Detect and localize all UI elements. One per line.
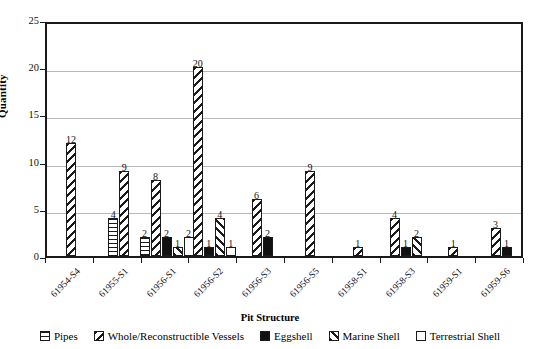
x-tick-mark — [380, 258, 381, 263]
bar-value-label: 1 — [221, 238, 241, 249]
bar — [140, 237, 150, 256]
legend-item: Terrestrial Shell — [416, 330, 500, 342]
y-tick-label: 20 — [13, 62, 39, 73]
legend-item: Eggshell — [260, 330, 313, 342]
bar-value-label: 2 — [407, 228, 427, 239]
y-tick-label: 5 — [13, 204, 39, 215]
x-tick-mark — [523, 258, 524, 263]
bar — [66, 143, 76, 256]
vessels-swatch-icon — [94, 331, 104, 341]
x-tick-label: 61956-S3 — [232, 266, 273, 307]
x-tick-label: 61955-S1 — [89, 266, 130, 307]
x-tick-mark — [427, 258, 428, 263]
bar — [193, 67, 203, 256]
x-tick-mark — [284, 258, 285, 263]
legend-label: Eggshell — [274, 330, 313, 342]
y-tick-label: 10 — [13, 157, 39, 168]
gridline — [47, 118, 521, 119]
eggshell-swatch-icon — [260, 331, 270, 341]
x-tick-mark — [141, 258, 142, 263]
marine-shell-swatch-icon — [329, 331, 339, 341]
y-axis-title: Quantity — [0, 74, 8, 118]
bar-value-label: 3 — [486, 219, 506, 230]
x-tick-label: 61959-S1 — [423, 266, 464, 307]
x-tick-label: 61954-S4 — [41, 266, 82, 307]
x-tick-label: 61958-S1 — [328, 266, 369, 307]
chart-legend: PipesWhole/Reconstructible VesselsEggshe… — [0, 330, 540, 342]
bar-value-label: 12 — [61, 134, 81, 145]
bar-value-label: 4 — [210, 209, 230, 220]
plot-area: 124928212201416291412131 — [45, 22, 523, 258]
bar — [108, 218, 118, 256]
x-tick-mark — [93, 258, 94, 263]
y-tick-label: 15 — [13, 109, 39, 120]
bar — [119, 171, 129, 256]
legend-label: Marine Shell — [343, 330, 400, 342]
bar-value-label: 20 — [188, 58, 208, 69]
bar-value-label: 9 — [300, 162, 320, 173]
legend-item: Pipes — [40, 330, 78, 342]
legend-label: Terrestrial Shell — [430, 330, 500, 342]
x-tick-mark — [236, 258, 237, 263]
bar-value-label: 4 — [385, 209, 405, 220]
x-tick-label: 61956-S1 — [137, 266, 178, 307]
bar-value-label: 1 — [348, 238, 368, 249]
x-tick-label: 61956-S2 — [184, 266, 225, 307]
x-axis-title: Pit Structure — [0, 312, 540, 323]
bar — [305, 171, 315, 256]
y-tick-label: 25 — [13, 15, 39, 26]
terrestrial-shell-swatch-icon — [416, 331, 426, 341]
x-tick-label: 61958-S3 — [376, 266, 417, 307]
bar — [263, 237, 273, 256]
bar-value-label: 9 — [114, 162, 134, 173]
legend-label: Whole/Reconstructible Vessels — [108, 330, 244, 342]
x-tick-mark — [188, 258, 189, 263]
bar-value-label: 1 — [497, 238, 517, 249]
legend-item: Whole/Reconstructible Vessels — [94, 330, 244, 342]
legend-label: Pipes — [54, 330, 78, 342]
bar — [151, 180, 161, 256]
y-tick-label: 0 — [13, 251, 39, 262]
x-tick-mark — [475, 258, 476, 263]
bar-value-label: 1 — [443, 238, 463, 249]
x-tick-mark — [45, 258, 46, 263]
bar — [412, 237, 422, 256]
bar-chart: Quantity 0510152025 12492821220141629141… — [0, 0, 540, 349]
bar-value-label: 2 — [258, 228, 278, 239]
x-tick-label: 61956-S5 — [280, 266, 321, 307]
x-tick-label: 61959-S6 — [471, 266, 512, 307]
legend-item: Marine Shell — [329, 330, 400, 342]
pipes-swatch-icon — [40, 331, 50, 341]
bar-value-label: 6 — [247, 190, 267, 201]
bar-value-label: 8 — [146, 171, 166, 182]
gridline — [47, 71, 521, 72]
x-tick-mark — [332, 258, 333, 263]
